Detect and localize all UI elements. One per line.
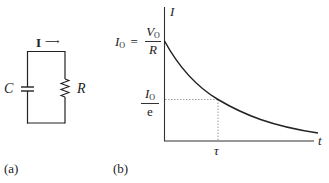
decay-value-fraction: IO e bbox=[141, 87, 159, 118]
diagram-canvas bbox=[0, 0, 329, 183]
x-axis-label: t bbox=[318, 134, 322, 147]
decay-curve bbox=[165, 41, 319, 133]
current-arrow-icon: ⟶ bbox=[45, 37, 59, 47]
current-symbol: I bbox=[36, 35, 41, 50]
panel-b-label: (b) bbox=[113, 162, 128, 175]
initial-current-lhs: IO = bbox=[115, 35, 138, 50]
resistor-symbol bbox=[61, 79, 69, 97]
panel-a-label: (a) bbox=[4, 162, 18, 175]
dashed-guides bbox=[165, 100, 218, 142]
time-constant-label: τ bbox=[214, 144, 219, 157]
capacitor-label: C bbox=[4, 82, 13, 96]
resistor-label: R bbox=[77, 82, 86, 96]
capacitor-symbol bbox=[21, 87, 34, 91]
y-axis-label: I bbox=[170, 5, 174, 18]
current-label: I bbox=[36, 36, 41, 49]
initial-current-fraction: VO R bbox=[145, 25, 161, 56]
